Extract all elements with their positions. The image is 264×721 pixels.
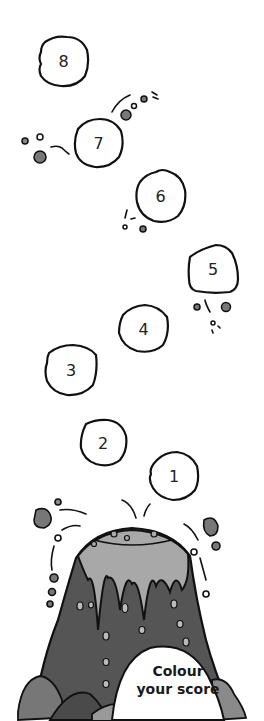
- boulder-label: 8: [37, 34, 90, 89]
- score-boulder-6[interactable]: 6: [134, 168, 187, 224]
- score-boulder-3[interactable]: 3: [43, 343, 99, 398]
- score-boulder-7[interactable]: 7: [72, 117, 125, 169]
- caption-line-1: Colour: [128, 662, 228, 680]
- boulder-label: 3: [43, 343, 99, 398]
- boulder-label: 2: [78, 418, 128, 468]
- score-boulder-4[interactable]: 4: [117, 303, 170, 355]
- colour-your-score-caption: Colour your score: [128, 662, 228, 698]
- boulder-label: 6: [134, 168, 187, 224]
- caption-line-2: your score: [128, 680, 228, 698]
- score-boulder-8[interactable]: 8: [37, 34, 90, 89]
- score-boulder-2[interactable]: 2: [78, 418, 128, 468]
- boulder-label: 7: [72, 117, 125, 169]
- boulder-label: 4: [117, 303, 170, 355]
- boulder-label: 5: [186, 243, 240, 295]
- score-boulder-5[interactable]: 5: [186, 243, 240, 295]
